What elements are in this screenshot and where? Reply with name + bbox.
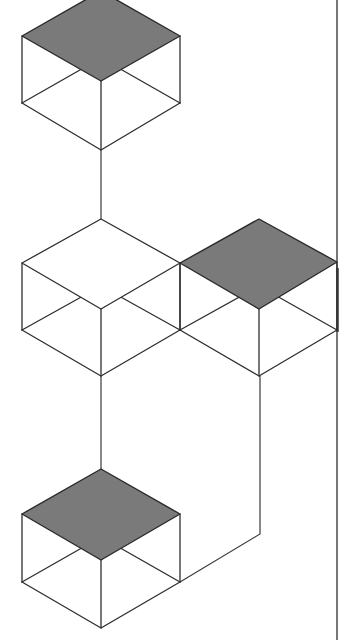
shaded-top-face — [22, 0, 180, 81]
cube-diagram — [0, 0, 339, 640]
connector-right-to-bottom — [180, 376, 260, 582]
cube-top — [22, 0, 180, 150]
shaded-top-face — [22, 469, 180, 560]
cube-middle-left — [22, 219, 180, 376]
open-top-face — [22, 219, 180, 309]
cube-middle-right — [180, 219, 337, 376]
shaded-top-face — [180, 219, 337, 309]
cube-bottom — [22, 469, 180, 628]
